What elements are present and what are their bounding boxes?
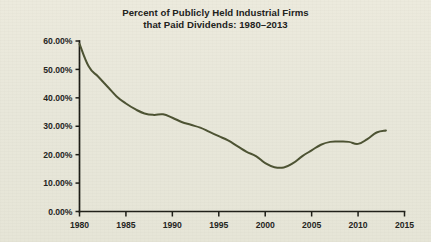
x-tick-label: 2015 (395, 220, 414, 230)
x-tick-label: 2005 (302, 220, 321, 230)
data-series-line (80, 44, 386, 168)
y-axis-tick-labels: 0.00%10.00%20.00%30.00%40.00%50.00%60.00… (43, 36, 73, 217)
x-axis-tick-labels: 19801985199019952000200520102015 (70, 220, 414, 230)
y-tick-label: 40.00% (43, 93, 73, 103)
chart-plot-area: 0.00%10.00%20.00%30.00%40.00%50.00%60.00… (0, 0, 431, 242)
y-tick-label: 20.00% (43, 150, 73, 160)
x-tick-label: 1980 (70, 220, 89, 230)
y-tick-label: 50.00% (43, 65, 73, 75)
chart-figure: Percent of Publicly Held Industrial Firm… (0, 0, 431, 242)
x-tick-label: 1990 (163, 220, 182, 230)
y-tick-label: 0.00% (48, 207, 73, 217)
y-tick-label: 60.00% (43, 36, 73, 46)
y-tick-label: 30.00% (43, 121, 73, 131)
x-tick-label: 1995 (209, 220, 228, 230)
x-tick-label: 2000 (256, 220, 275, 230)
y-tick-label: 10.00% (43, 178, 73, 188)
x-tick-label: 1985 (116, 220, 135, 230)
x-tick-label: 2010 (349, 220, 368, 230)
